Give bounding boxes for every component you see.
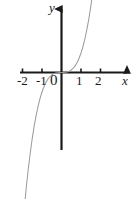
cubic-curve-y-equals-x-cubed <box>21 0 92 199</box>
x-tick-label-1: 1 <box>76 74 83 87</box>
x-tick-label-2: 2 <box>95 74 102 87</box>
x-tick-label-0: 0 <box>50 73 58 88</box>
y-axis-label: y <box>49 1 55 14</box>
cubic-curve-group <box>21 0 92 199</box>
function-graph-figure: -2 -1 0 1 2 y x <box>0 0 136 199</box>
x-axis-label: x <box>122 74 128 87</box>
x-tick-label--1: -1 <box>36 74 47 87</box>
plot-canvas <box>0 0 136 199</box>
x-tick-label--2: -2 <box>17 74 28 87</box>
